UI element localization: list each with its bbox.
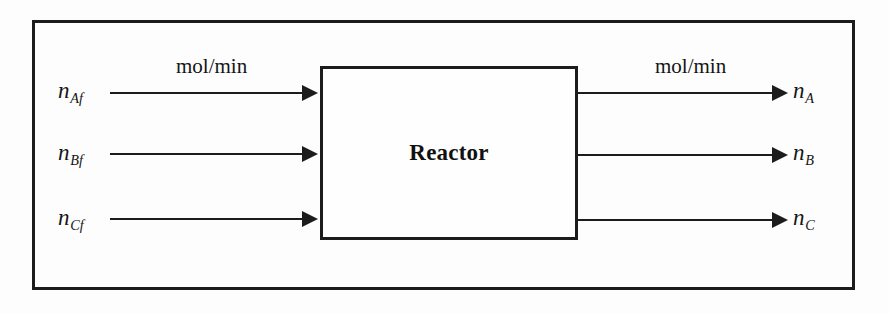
outlet-stream-label-1: nB [793,140,813,166]
outlet-arrow-head-2 [772,212,788,228]
inlet-stream-label-1: nBf [58,140,82,166]
inlet-stream-symbol-2: n [58,205,70,230]
inlet-flow-line-0 [110,92,302,94]
diagram-canvas: mol/min nAf nBf nCf Reactor mol/min nA n… [0,0,889,313]
inlet-arrow-head-1 [302,146,318,162]
inlet-stream-label-2: nCf [58,205,83,231]
outlet-stream-label-2: nC [793,205,814,231]
outlet-flow-line-0 [578,92,775,94]
reactor-unit-label: Reactor [323,69,575,237]
inlet-stream-subscript-1: Bf [70,152,83,168]
outlet-stream-symbol-0: n [793,78,805,103]
outlet-stream-symbol-2: n [793,205,805,230]
reactor-unit-block: Reactor [320,66,578,240]
inlet-arrow-head-0 [302,85,318,101]
inlet-stream-label-0: nAf [58,78,82,104]
outlet-arrow-head-0 [772,85,788,101]
inlet-stream-symbol-0: n [58,78,70,103]
outlet-arrow-head-1 [772,147,788,163]
inlet-flow-line-1 [110,153,302,155]
outlet-stream-symbol-1: n [793,140,805,165]
inlet-stream-subscript-2: Cf [70,217,83,233]
outlet-stream-subscript-1: B [805,152,814,168]
inlet-arrow-head-2 [302,211,318,227]
outlet-stream-label-0: nA [793,78,813,104]
outlet-flow-line-1 [578,154,775,156]
outlet-units-label: mol/min [655,54,726,79]
inlet-stream-symbol-1: n [58,140,70,165]
inlet-units-label: mol/min [176,54,247,79]
outlet-stream-subscript-0: A [805,90,814,106]
inlet-flow-line-2 [110,218,302,220]
outlet-stream-subscript-2: C [805,217,815,233]
inlet-stream-subscript-0: Af [70,90,83,106]
outlet-flow-line-2 [578,219,775,221]
